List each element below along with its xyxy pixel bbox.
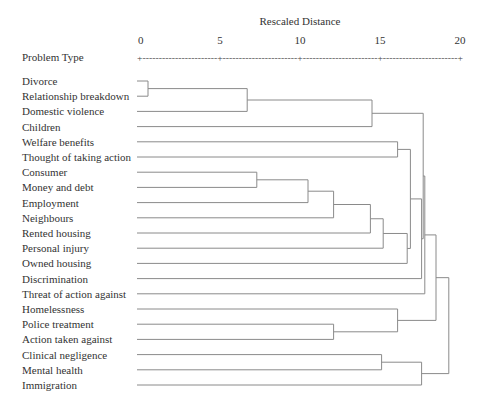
x-tick-label: 5: [217, 34, 223, 46]
leaf-label: Discrimination: [22, 273, 88, 285]
leaf-labels: DivorceRelationship breakdownDomestic vi…: [22, 75, 132, 391]
leaf-label: Relationship breakdown: [22, 90, 130, 102]
leaf-label: Welfare benefits: [22, 136, 94, 148]
x-tick-label: 20: [455, 34, 467, 46]
x-tick-label: 15: [375, 34, 387, 46]
leaf-label: Thought of taking action: [22, 151, 132, 163]
dendrogram-chart: Rescaled Distance 05101520 Problem Type …: [0, 0, 482, 410]
leaf-label: Divorce: [22, 75, 58, 87]
leaf-label: Owned housing: [22, 257, 92, 269]
dendrogram-branches: [137, 81, 449, 385]
leaf-label: Action taken against: [22, 333, 112, 345]
leaf-label: Domestic violence: [22, 105, 104, 117]
x-axis-title: Rescaled Distance: [260, 15, 341, 27]
leaf-label: Police treatment: [22, 318, 94, 330]
leaf-label: Neighbours: [22, 212, 73, 224]
x-tick-label: 0: [138, 34, 144, 46]
x-axis-ticks: 05101520: [138, 34, 466, 46]
x-axis-dash-line: +-----------------------+---------------…: [137, 53, 463, 63]
leaf-label: Rented housing: [22, 227, 91, 239]
leaf-label: Homelessness: [22, 303, 84, 315]
leaf-label: Consumer: [22, 166, 68, 178]
leaf-label: Immigration: [22, 379, 77, 391]
leaf-label: Mental health: [22, 364, 83, 376]
row-header: Problem Type: [22, 51, 84, 63]
leaf-label: Clinical negligence: [22, 349, 107, 361]
leaf-label: Personal injury: [22, 242, 89, 254]
leaf-label: Employment: [22, 197, 79, 209]
x-tick-label: 10: [295, 34, 307, 46]
leaf-label: Children: [22, 121, 61, 133]
leaf-label: Threat of action against: [22, 288, 126, 300]
leaf-label: Money and debt: [22, 181, 93, 193]
